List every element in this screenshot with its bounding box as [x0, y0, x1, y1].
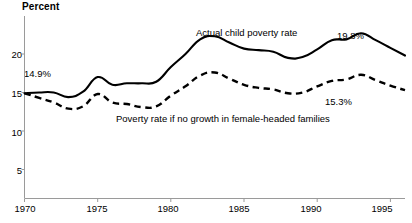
plot-area [0, 0, 412, 223]
line-poverty-rate-no-growth [25, 72, 406, 109]
child-poverty-chart: Percent 20 15 10 5 1970 1975 1980 1985 1… [0, 0, 412, 223]
line-actual-child-poverty-rate [25, 33, 406, 97]
x-tick-marks [25, 199, 391, 203]
